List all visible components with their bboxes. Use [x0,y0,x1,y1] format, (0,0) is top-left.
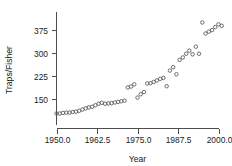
x-tick-label: 1950.0 [45,135,71,145]
y-axis-title: Traps/Fisher [4,46,14,94]
y-tick-label: 225 [34,72,48,82]
x-tick-label: 2000.0 [207,135,232,145]
y-tick-label: 375 [34,26,48,36]
x-tick-label: 1975.0 [126,135,152,145]
scatter-plot: 150225300375 1950.01962.51975.01987.5200… [0,0,232,166]
chart-figure: 150225300375 1950.01962.51975.01987.5200… [0,0,232,166]
y-tick-label: 300 [34,49,48,59]
y-tick-label: 150 [34,95,48,105]
x-axis-title: Year [129,154,147,164]
x-tick-label: 1962.5 [85,135,111,145]
x-tick-label: 1987.5 [166,135,192,145]
